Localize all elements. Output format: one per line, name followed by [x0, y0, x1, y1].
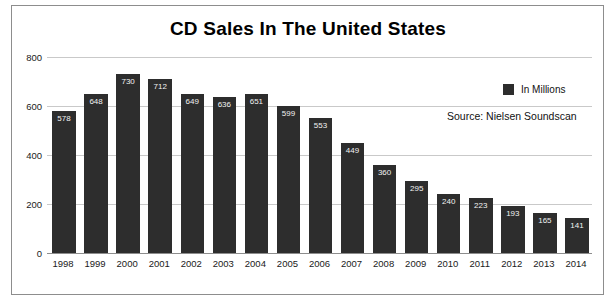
bar-value-label: 141 — [565, 221, 589, 230]
bar-value-label: 295 — [405, 184, 429, 193]
bar: 730 — [116, 74, 140, 253]
y-axis-labels: 0200400600800 — [0, 57, 42, 253]
bar: 578 — [52, 111, 76, 253]
bar-value-label: 223 — [469, 201, 493, 210]
x-axis-tick-label: 2000 — [111, 258, 143, 269]
x-axis-tick-label: 2003 — [207, 258, 239, 269]
bar-value-label: 651 — [245, 97, 269, 106]
x-axis-tick-label: 2008 — [368, 258, 400, 269]
gridline — [47, 57, 592, 58]
x-axis-tick-label: 2014 — [560, 258, 592, 269]
bar-value-label: 599 — [277, 109, 301, 118]
bar: 449 — [341, 143, 365, 253]
bar-value-label: 360 — [373, 168, 397, 177]
legend-label-in-millions: In Millions — [521, 84, 565, 95]
source-note: Source: Nielsen Soundscan — [447, 110, 577, 122]
bar-value-label: 553 — [309, 121, 333, 130]
legend-swatch-in-millions — [503, 84, 514, 95]
bar: 240 — [437, 194, 461, 253]
bar-value-label: 193 — [501, 209, 525, 218]
bar-value-label: 730 — [116, 77, 140, 86]
y-axis-tick-label: 600 — [2, 101, 42, 112]
legend: In Millions — [503, 84, 565, 95]
y-axis-tick-label: 0 — [2, 248, 42, 259]
bar-value-label: 636 — [213, 100, 237, 109]
bar: 193 — [501, 206, 525, 253]
x-axis-tick-label: 2006 — [303, 258, 335, 269]
x-axis-tick-label: 2001 — [143, 258, 175, 269]
x-axis-tick-label: 2005 — [271, 258, 303, 269]
bar: 636 — [213, 97, 237, 253]
bar: 553 — [309, 118, 333, 253]
bar-value-label: 165 — [533, 216, 557, 225]
x-axis-tick-label: 2013 — [528, 258, 560, 269]
x-axis-tick-label: 2012 — [496, 258, 528, 269]
bar-value-label: 649 — [181, 97, 205, 106]
bar: 141 — [565, 218, 589, 253]
chart-title: CD Sales In The United States — [0, 18, 616, 40]
chart-screenshot: CD Sales In The United States 0200400600… — [0, 0, 616, 308]
bar: 651 — [245, 94, 269, 253]
x-axis-tick-label: 2007 — [336, 258, 368, 269]
bar: 648 — [84, 94, 108, 253]
bar-value-label: 240 — [437, 197, 461, 206]
bar: 360 — [373, 165, 397, 253]
x-axis-tick-label: 2009 — [400, 258, 432, 269]
x-axis-tick-label: 2011 — [464, 258, 496, 269]
bar: 649 — [181, 94, 205, 253]
x-axis-tick-label: 2002 — [175, 258, 207, 269]
bar: 295 — [405, 181, 429, 253]
bar-value-label: 449 — [341, 146, 365, 155]
x-axis-tick-label: 2010 — [432, 258, 464, 269]
bar: 223 — [469, 198, 493, 253]
y-axis-tick-label: 200 — [2, 199, 42, 210]
bar-value-label: 712 — [148, 82, 172, 91]
x-axis-tick-label: 1998 — [47, 258, 79, 269]
x-axis-baseline — [47, 253, 592, 254]
bar: 712 — [148, 79, 172, 253]
x-axis-tick-label: 2004 — [239, 258, 271, 269]
bar: 599 — [277, 106, 301, 253]
y-axis-tick-label: 800 — [2, 52, 42, 63]
bar-value-label: 578 — [52, 114, 76, 123]
y-axis-tick-label: 400 — [2, 150, 42, 161]
bar: 165 — [533, 213, 557, 253]
x-axis-tick-label: 1999 — [79, 258, 111, 269]
bar-value-label: 648 — [84, 97, 108, 106]
